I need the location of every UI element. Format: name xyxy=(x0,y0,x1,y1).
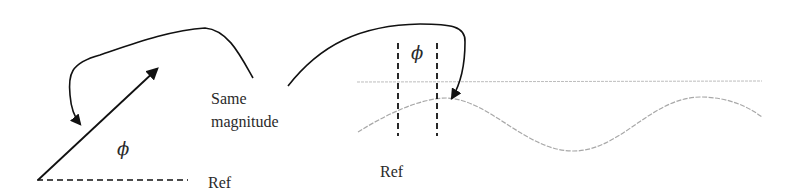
waveform-axis-line xyxy=(357,81,762,82)
waveform-reference-label: Ref xyxy=(380,162,403,182)
waveform-diagram xyxy=(288,24,762,151)
curved-arrow-left xyxy=(69,28,253,124)
curved-arrow-right xyxy=(288,24,465,98)
same-magnitude-label-line2: magnitude xyxy=(211,112,279,132)
same-magnitude-label-line1: Same xyxy=(211,89,247,109)
phasor-vector-arrow xyxy=(38,69,157,180)
phase-shift-label: ϕ xyxy=(411,42,423,63)
phasor-reference-label: Ref xyxy=(208,173,231,193)
phasor-angle-label: ϕ xyxy=(117,138,129,159)
sine-waveform xyxy=(358,97,762,151)
